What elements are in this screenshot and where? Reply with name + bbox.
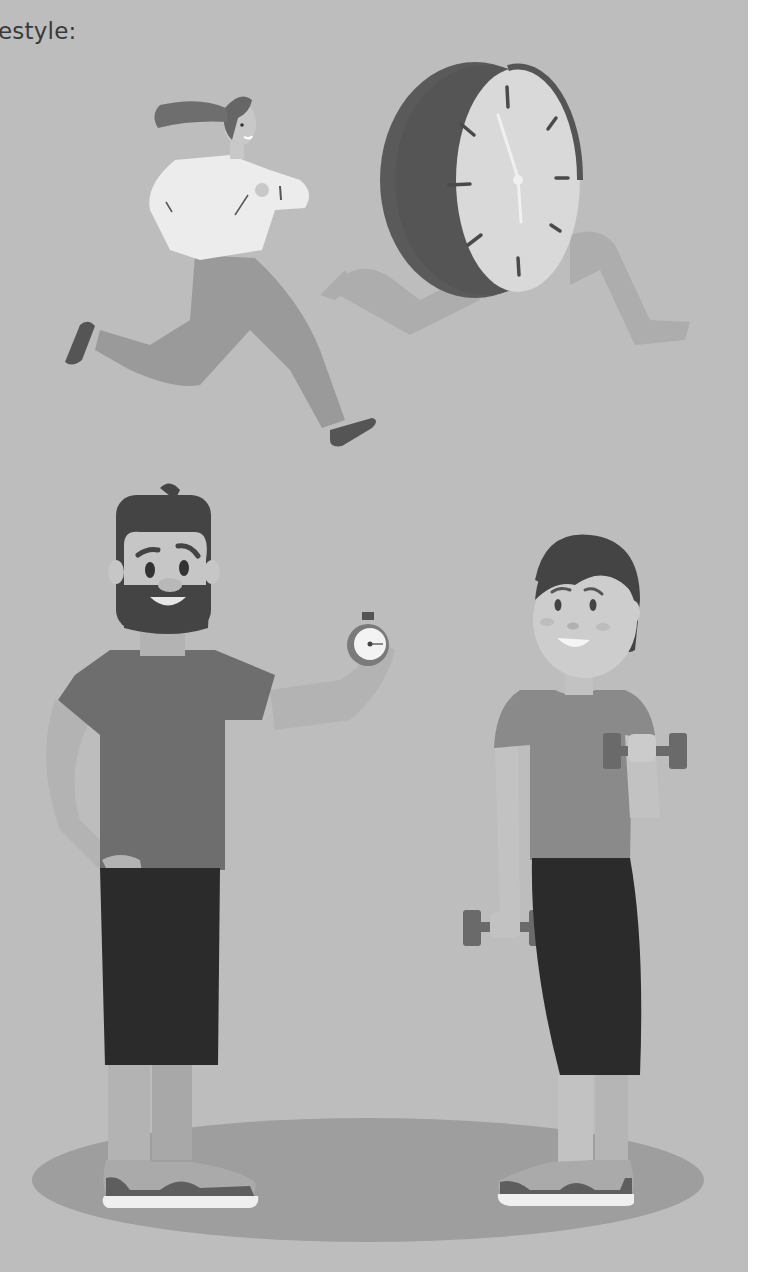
running-woman-figure [65,96,376,446]
stopwatch-icon [347,612,389,666]
running-clock-icon [320,62,690,345]
bearded-man-figure [46,483,395,1208]
lifestyle-illustration [0,0,763,1272]
dumbbell-woman-figure [463,535,687,1206]
